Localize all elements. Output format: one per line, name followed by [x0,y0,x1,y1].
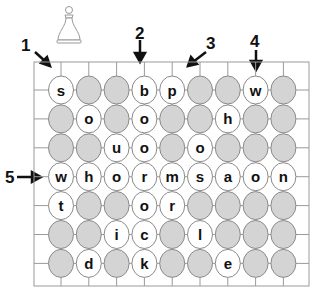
grid-cell[interactable] [160,221,185,249]
grid-cell[interactable] [215,134,240,162]
grid-cell[interactable] [215,221,240,249]
grid-cell[interactable] [49,105,74,133]
grid-cell[interactable]: a [215,163,240,191]
grid-cell[interactable] [76,76,101,104]
grid-cell[interactable] [104,249,129,277]
cell-letter: o [84,110,93,127]
grid-cell[interactable] [49,221,74,249]
grid-cell[interactable] [104,192,129,220]
grid-cell[interactable] [271,192,296,220]
grid-cell[interactable]: m [160,163,185,191]
grid-cell[interactable] [271,249,296,277]
grid-cell[interactable]: t [49,192,74,220]
grid-cell[interactable] [160,249,185,277]
grid-cell[interactable]: h [215,105,240,133]
grid-cell[interactable] [76,221,101,249]
grid-cell[interactable] [243,221,268,249]
arrow-3-icon [188,52,206,66]
cell-letter: b [140,82,149,99]
cell-letter: t [59,197,64,214]
cell-letter: r [141,168,147,185]
cell-letter: c [140,226,148,243]
arrow-2-icon [135,40,145,62]
grid-cell[interactable] [215,76,240,104]
cell-letter: o [140,110,149,127]
grid-cell[interactable] [271,134,296,162]
grid-cell[interactable]: r [132,163,157,191]
grid-cell[interactable] [215,192,240,220]
grid-cell[interactable]: h [76,163,101,191]
cell-letter: o [251,168,260,185]
grid-cell[interactable]: s [49,76,74,104]
grid-cell[interactable]: r [160,192,185,220]
cell-letter: p [168,82,177,99]
grid-cell[interactable] [188,249,213,277]
grid-cell[interactable] [49,134,74,162]
grid-cell[interactable]: d [76,249,101,277]
cell-letter: i [115,226,119,243]
arrow-label-3: 3 [206,35,215,52]
grid-cell[interactable]: o [132,192,157,220]
arrow-label-1: 1 [21,37,30,54]
cell-letter: h [84,168,93,185]
grid-cell[interactable]: o [132,105,157,133]
arrow-label-4: 4 [250,33,259,50]
cell-letter: l [198,226,202,243]
grid-cell[interactable]: o [132,134,157,162]
grid-cell[interactable] [76,192,101,220]
cell-letter: u [112,139,121,156]
word-puzzle-board: sbpwoohuoowhormsaontoricldke 1 2 3 4 5 [0,0,317,293]
grid-cell[interactable]: p [160,76,185,104]
grid-cell[interactable] [160,134,185,162]
grid-cell[interactable]: s [188,163,213,191]
grid-cell[interactable]: w [49,163,74,191]
cell-letter: o [112,168,121,185]
grid-cell[interactable]: o [243,163,268,191]
grid-cell[interactable] [49,249,74,277]
pawn-icon [57,7,81,44]
grid-cell[interactable] [104,105,129,133]
cell-letter: h [223,110,232,127]
cell-letter: k [140,255,149,272]
grid-cell[interactable]: w [243,76,268,104]
cell-letter: n [279,168,288,185]
grid-cell[interactable]: o [188,134,213,162]
grid-cell[interactable]: i [104,221,129,249]
cell-letter: w [249,82,262,99]
grid-cell[interactable]: e [215,249,240,277]
grid-cell[interactable] [188,192,213,220]
cell-letter: a [224,168,233,185]
grid-cell[interactable]: o [104,163,129,191]
grid-cell[interactable]: o [76,105,101,133]
grid-cell[interactable] [243,134,268,162]
grid-cell[interactable]: n [271,163,296,191]
cell-letter: o [140,197,149,214]
grid-cell[interactable]: b [132,76,157,104]
grid-cell[interactable]: k [132,249,157,277]
grid-cell[interactable] [243,105,268,133]
grid-cell[interactable]: l [188,221,213,249]
cell-letter: o [140,139,149,156]
grid-cell[interactable] [243,249,268,277]
puzzle-grid: sbpwoohuoowhormsaontoricldke [0,0,317,293]
grid-cell[interactable] [271,105,296,133]
arrow-1-icon [35,52,50,66]
grid-cell[interactable] [76,134,101,162]
grid-cell[interactable] [188,76,213,104]
grid-cell[interactable] [104,76,129,104]
cell-letter: o [195,139,204,156]
grid-cell[interactable] [160,105,185,133]
grid-cell[interactable] [271,76,296,104]
grid-cell[interactable]: c [132,221,157,249]
cell-letter: s [57,82,65,99]
cell-letter: s [196,168,204,185]
grid-cell[interactable]: u [104,134,129,162]
grid-cell[interactable] [271,221,296,249]
cell-letter: d [84,255,93,272]
grid-cell[interactable] [188,105,213,133]
cell-letter: w [54,168,67,185]
grid-cells: sbpwoohuoowhormsaontoricldke [49,76,296,277]
cell-letter: r [169,197,175,214]
cell-letter: e [224,255,232,272]
grid-cell[interactable] [243,192,268,220]
